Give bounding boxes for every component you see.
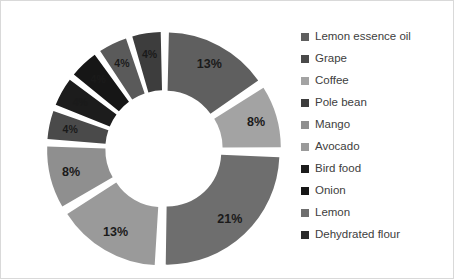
chart-frame: 13%8%21%13%8%4%4%4%4%4% Lemon essence oi… bbox=[0, 0, 454, 279]
legend-item[interactable]: Dehydrated flour bbox=[301, 224, 449, 246]
donut-slice-value-label: 4% bbox=[142, 48, 158, 60]
legend-color-swatch bbox=[301, 55, 309, 63]
legend-item[interactable]: Lemon bbox=[301, 202, 449, 224]
legend-item-label: Dehydrated flour bbox=[315, 229, 400, 241]
donut-slice-value-label: 8% bbox=[62, 165, 80, 179]
donut-slice-value-label: 21% bbox=[217, 212, 242, 226]
donut-slice-value-label: 13% bbox=[197, 57, 222, 71]
legend-item-label: Avocado bbox=[315, 141, 360, 153]
legend-item-label: Onion bbox=[315, 185, 346, 197]
donut-slice-value-label: 8% bbox=[247, 115, 265, 129]
legend-item-label: Lemon bbox=[315, 207, 350, 219]
legend-color-swatch bbox=[301, 121, 309, 129]
legend-item[interactable]: Grape bbox=[301, 48, 449, 70]
donut-chart-plot-area: 13%8%21%13%8%4%4%4%4%4% bbox=[1, 1, 293, 279]
donut-slices-group bbox=[47, 32, 281, 265]
legend-item-label: Lemon essence oil bbox=[315, 31, 411, 43]
legend-item-label: Mango bbox=[315, 119, 350, 131]
donut-slice-value-label: 4% bbox=[91, 73, 107, 85]
legend-item-label: Grape bbox=[315, 53, 347, 65]
legend-color-swatch bbox=[301, 77, 309, 85]
donut-slice-value-label: 4% bbox=[114, 57, 130, 69]
chart-legend: Lemon essence oilGrapeCoffeePole beanMan… bbox=[301, 26, 449, 246]
donut-slice[interactable] bbox=[166, 155, 280, 265]
legend-color-swatch bbox=[301, 33, 309, 41]
legend-item[interactable]: Pole bean bbox=[301, 92, 449, 114]
legend-color-swatch bbox=[301, 165, 309, 173]
legend-item[interactable]: Lemon essence oil bbox=[301, 26, 449, 48]
legend-item-label: Coffee bbox=[315, 75, 349, 87]
donut-slice-value-label: 13% bbox=[103, 225, 128, 239]
legend-color-swatch bbox=[301, 187, 309, 195]
legend-item[interactable]: Onion bbox=[301, 180, 449, 202]
legend-item-label: Pole bean bbox=[315, 97, 367, 109]
donut-chart-svg: 13%8%21%13%8%4%4%4%4%4% bbox=[1, 1, 293, 279]
legend-color-swatch bbox=[301, 143, 309, 151]
donut-slice-value-label: 4% bbox=[73, 96, 89, 108]
legend-color-swatch bbox=[301, 231, 309, 239]
legend-item-label: Bird food bbox=[315, 163, 361, 175]
legend-item[interactable]: Avocado bbox=[301, 136, 449, 158]
donut-slice-value-label: 4% bbox=[63, 123, 79, 135]
legend-item[interactable]: Mango bbox=[301, 114, 449, 136]
legend-item[interactable]: Bird food bbox=[301, 158, 449, 180]
legend-color-swatch bbox=[301, 99, 309, 107]
legend-color-swatch bbox=[301, 209, 309, 217]
legend-item[interactable]: Coffee bbox=[301, 70, 449, 92]
